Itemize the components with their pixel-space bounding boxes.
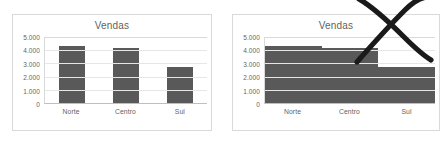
y-axis-tick-label: 5.000 [243, 34, 260, 41]
bar-slot [265, 37, 322, 103]
plot-wrapper: 01.0002.0003.0004.0005.000 NorteCentroSu… [13, 37, 207, 126]
gridline [45, 90, 207, 91]
bar-slot [45, 37, 99, 103]
gridline [265, 50, 435, 51]
y-axis-tick-label: 2.000 [243, 74, 260, 81]
bar-slot [99, 37, 153, 103]
y-axis-tick-label: 4.000 [23, 47, 40, 54]
plot-wrapper: 01.0002.0003.0004.0005.000 NorteCentroSu… [233, 37, 435, 126]
y-axis-tick-label: 1.000 [23, 87, 40, 94]
bar [378, 67, 435, 103]
y-axis-tick-label: 3.000 [243, 60, 260, 67]
x-axis-left: NorteCentroSul [44, 104, 207, 124]
x-axis-tick-label: Norte [264, 108, 321, 115]
gridline [265, 37, 435, 38]
x-axis-tick-label: Sul [378, 108, 435, 115]
chart-title: Vendas [233, 20, 439, 31]
bar-slot [378, 37, 435, 103]
gridline [265, 77, 435, 78]
y-axis-tick-label: 1.000 [243, 87, 260, 94]
gridline [45, 37, 207, 38]
chart-title: Vendas [13, 20, 211, 31]
y-axis-tick-label: 4.000 [243, 47, 260, 54]
y-axis-tick-label: 5.000 [23, 34, 40, 41]
plot-area [264, 37, 435, 104]
bar-series [265, 37, 435, 103]
plot-area [44, 37, 207, 104]
y-axis-tick-label: 0 [36, 101, 40, 108]
chart-panel-correct: Vendas 01.0002.0003.0004.0005.000 NorteC… [12, 14, 212, 131]
bar-slot [153, 37, 207, 103]
gridline [45, 63, 207, 64]
bar-series [45, 37, 207, 103]
bar [265, 46, 322, 103]
y-axis-left: 01.0002.0003.0004.0005.000 [13, 37, 43, 104]
x-axis-tick-label: Centro [98, 108, 152, 115]
y-axis-right: 01.0002.0003.0004.0005.000 [233, 37, 263, 104]
x-axis-tick-label: Sul [153, 108, 207, 115]
x-axis-tick-label: Norte [44, 108, 98, 115]
gridline [265, 90, 435, 91]
bar-slot [322, 37, 379, 103]
y-axis-tick-label: 2.000 [23, 74, 40, 81]
x-axis-right: NorteCentroSul [264, 104, 435, 124]
y-axis-tick-label: 3.000 [23, 60, 40, 67]
chart-panel-incorrect: Vendas 01.0002.0003.0004.0005.000 NorteC… [232, 14, 440, 131]
y-axis-tick-label: 0 [256, 101, 260, 108]
gridline [45, 50, 207, 51]
gridline [45, 77, 207, 78]
gridline [265, 63, 435, 64]
x-axis-tick-label: Centro [321, 108, 378, 115]
bar [59, 46, 85, 103]
bar [167, 67, 193, 103]
